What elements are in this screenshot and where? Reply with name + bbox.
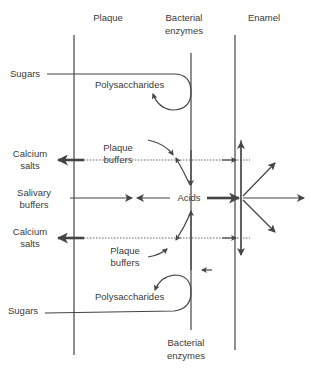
bacterial-enzymes-title-line2: enzymes bbox=[165, 25, 203, 36]
calcium-salts-label-bottom-line1: Calcium bbox=[13, 226, 47, 237]
calcium-salts-label-top-line1: Calcium bbox=[13, 148, 47, 159]
plaque-buffers-arrow-top bbox=[148, 140, 173, 155]
plaque-column-title: Plaque bbox=[93, 12, 123, 23]
polysaccharides-label-bottom: Polysaccharides bbox=[95, 291, 164, 302]
plaque-buffers-arrow-bottom bbox=[148, 249, 167, 257]
calcium-salts-label-bottom-line2: salts bbox=[20, 238, 40, 249]
bacterial-enzymes-title-line1: Bacterial bbox=[166, 12, 203, 23]
bacterial-enzymes-bottom-line2: enzymes bbox=[167, 350, 205, 361]
acids-to-plaque-buffers-arrow-top bbox=[176, 158, 190, 185]
acids-label: Acids bbox=[177, 192, 200, 203]
acids-to-plaque-buffers-arrow-bottom bbox=[176, 214, 190, 240]
salivary-buffers-label-line1: Salivary bbox=[17, 187, 51, 198]
calcium-salts-label-top-line2: salts bbox=[20, 160, 40, 171]
plaque-buffers-label-bottom-line2: buffers bbox=[111, 257, 140, 268]
polysaccharides-label-top: Polysaccharides bbox=[95, 79, 164, 90]
plaque-buffers-label-bottom-line1: Plaque bbox=[110, 245, 140, 256]
dental-caries-diagram: Plaque Bacterial enzymes Enamel Sugars P… bbox=[0, 0, 311, 371]
enamel-column-title: Enamel bbox=[248, 12, 280, 23]
enamel-diagonal-up-arrow bbox=[243, 163, 275, 196]
enamel-diagonal-down-arrow bbox=[243, 200, 275, 232]
sugars-label-top: Sugars bbox=[10, 68, 40, 79]
salivary-buffers-label-line2: buffers bbox=[20, 199, 49, 210]
plaque-buffers-label-top-line1: Plaque bbox=[103, 142, 133, 153]
bacterial-enzymes-bottom-line1: Bacterial bbox=[168, 337, 205, 348]
sugars-label-bottom: Sugars bbox=[8, 305, 38, 316]
